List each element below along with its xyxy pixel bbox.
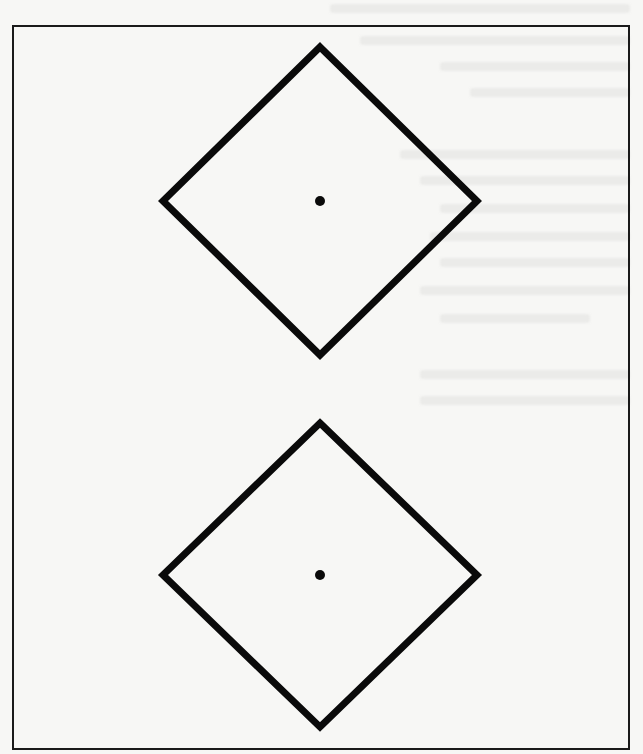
bottom-diamond-group — [163, 423, 477, 727]
top-diamond-group — [163, 47, 477, 355]
bottom-diamond-center-dot — [315, 570, 325, 580]
diamond-figure — [0, 0, 643, 754]
top-diamond-center-dot — [315, 196, 325, 206]
